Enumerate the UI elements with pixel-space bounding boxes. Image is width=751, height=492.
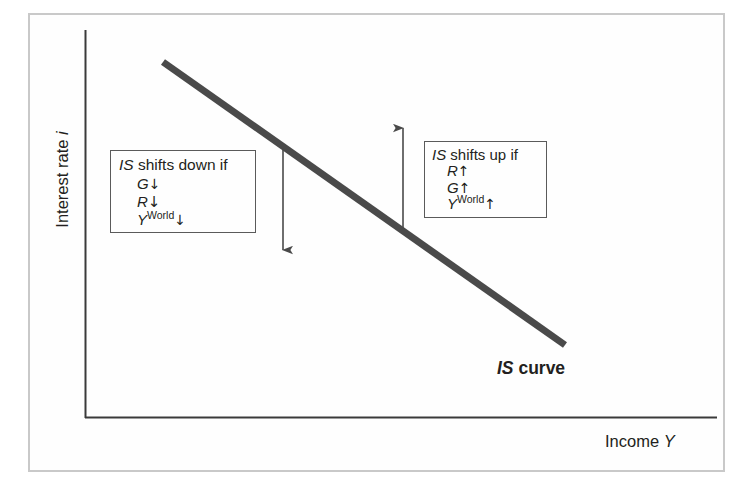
shift-down-heading-rest: shifts down if (134, 156, 228, 173)
is-curve-figure: Interest rate i Income Y IS curve IS shi… (0, 0, 751, 492)
x-axis-label-text: Income (605, 432, 664, 450)
is-curve-label: IS curve (497, 358, 565, 379)
shift-up-item-0: R↑ (447, 163, 496, 180)
x-axis-label: Income Y (605, 432, 675, 451)
shift-up-heading-rest: shifts up if (446, 146, 518, 163)
shift-down-item-2-arrow-icon: ↓ (174, 212, 186, 228)
shift-up-item-0-arrow-icon: ↑ (458, 163, 470, 179)
shift-down-heading: IS shifts down if (119, 156, 228, 174)
shift-up-heading: IS shifts up if (432, 146, 518, 163)
shift-up-heading-emphasis: IS (432, 146, 446, 163)
shift-down-item-0: G↓ (137, 175, 186, 193)
shift-up-items: R↑ G↑ YWorld↑ (447, 163, 496, 213)
shift-down-item-1-symbol: R (137, 193, 148, 210)
shift-down-items: G↓ R↓ YWorld↓ (137, 175, 186, 229)
shift-up-item-2: YWorld↑ (447, 196, 496, 213)
shift-up-annotation-box: IS shifts up if R↑ G↑ YWorld↑ (424, 141, 547, 218)
shift-down-item-2: YWorld↓ (137, 211, 186, 229)
is-curve-label-emphasis: IS (497, 358, 514, 378)
shift-up-item-2-arrow-icon: ↑ (484, 196, 496, 212)
shift-down-item-2-symbol: Y (137, 211, 147, 228)
shift-down-heading-emphasis: IS (119, 156, 134, 173)
shift-down-item-2-superscript: World (147, 209, 174, 221)
plot-canvas (0, 0, 751, 492)
shift-down-item-0-symbol: G (137, 175, 149, 192)
shift-up-item-2-symbol: Y (447, 195, 457, 212)
shift-up-item-2-superscript: World (457, 193, 484, 205)
is-curve-label-rest: curve (514, 358, 566, 378)
shift-up-item-0-symbol: R (447, 162, 458, 179)
shift-down-annotation-box: IS shifts down if G↓ R↓ YWorld↓ (110, 150, 256, 233)
shift-down-item-0-arrow-icon: ↓ (149, 176, 161, 192)
y-axis-label: Interest rate i (53, 100, 72, 260)
y-axis-label-text: Interest rate (53, 135, 71, 228)
x-axis-label-symbol: Y (664, 432, 675, 450)
y-axis-label-symbol: i (53, 131, 71, 135)
